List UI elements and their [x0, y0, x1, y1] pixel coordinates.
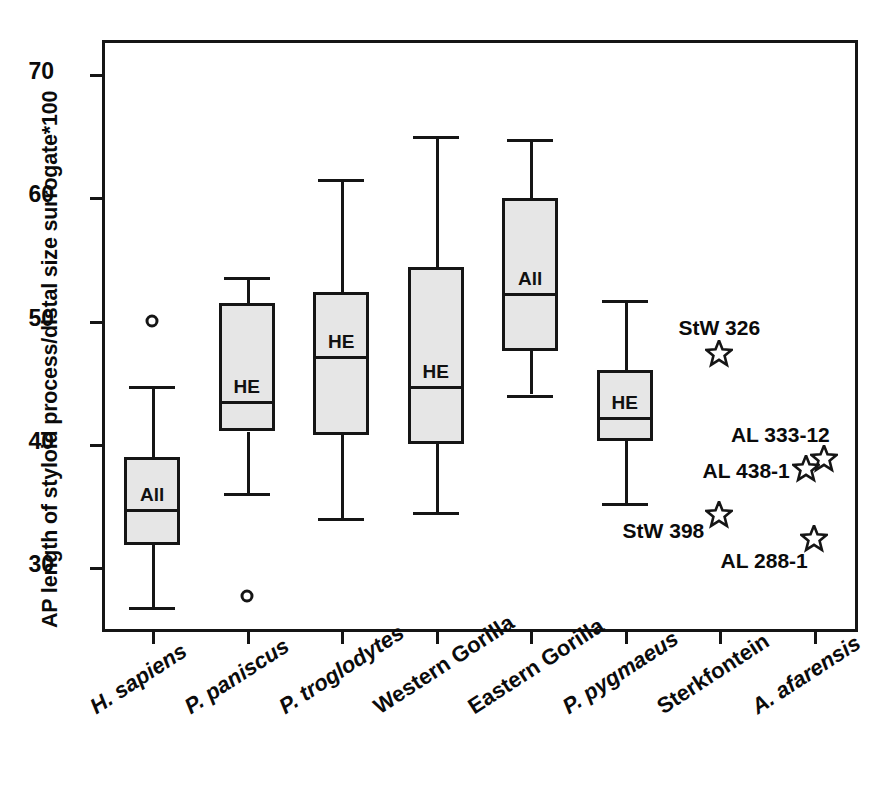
fossil-label-0: StW 326	[678, 316, 760, 340]
whisker-upper	[341, 179, 344, 292]
outlier-point[interactable]	[240, 589, 253, 602]
whisker-lower	[341, 435, 344, 518]
y-axis-tick-label: 30	[28, 551, 54, 578]
whisker-cap-upper	[602, 300, 648, 303]
y-axis-tick-label: 60	[28, 181, 54, 208]
outlier-point[interactable]	[146, 314, 159, 327]
whisker-cap-upper	[129, 386, 175, 389]
y-axis-tick-label: 40	[28, 427, 54, 454]
caption-strip	[0, 770, 895, 799]
median-line	[313, 356, 369, 359]
fossil-label-4: AL 288-1	[721, 549, 808, 573]
whisker-cap-lower	[602, 503, 648, 506]
box-iqr[interactable]	[219, 303, 275, 431]
whisker-cap-upper	[507, 139, 553, 142]
median-line	[219, 401, 275, 404]
median-line	[408, 386, 464, 389]
fossil-label-2: AL 333-12	[731, 423, 830, 447]
y-axis-tick	[90, 444, 105, 447]
x-axis-tick	[341, 629, 344, 644]
y-axis-tick	[90, 197, 105, 200]
box-iqr[interactable]	[313, 292, 369, 435]
box-iqr[interactable]	[408, 267, 464, 443]
x-axis-tick-label-1[interactable]: P. paniscus	[180, 633, 294, 720]
x-axis-tick	[719, 629, 722, 644]
y-axis-tick	[90, 74, 105, 77]
whisker-lower	[625, 441, 628, 503]
whisker-lower	[247, 432, 250, 494]
y-axis-tick-label: 50	[28, 304, 54, 331]
whisker-upper	[247, 277, 250, 303]
whisker-cap-lower	[507, 395, 553, 398]
median-line	[597, 417, 653, 420]
whisker-lower	[530, 351, 533, 394]
whisker-upper	[530, 139, 533, 198]
x-axis-tick	[152, 629, 155, 644]
fossil-label-3: AL 438-1	[703, 459, 790, 483]
plot-area: AllHEHEHEAllHE StW 326StW 398AL 333-12AL…	[102, 40, 858, 632]
whisker-lower	[152, 545, 155, 607]
fossil-star-icon[interactable]	[705, 501, 733, 529]
box-tag-label: All	[140, 484, 164, 506]
box-tag-label: HE	[612, 392, 638, 414]
fossil-label-1: StW 398	[623, 519, 705, 543]
whisker-cap-upper	[318, 179, 364, 182]
x-axis-tick	[530, 629, 533, 644]
whisker-cap-lower	[224, 493, 270, 496]
fossil-star-icon[interactable]	[792, 455, 820, 483]
whisker-cap-lower	[129, 607, 175, 610]
whisker-lower	[436, 444, 439, 512]
whisker-upper	[436, 136, 439, 268]
whisker-upper	[152, 386, 155, 458]
y-axis-tick	[90, 567, 105, 570]
x-axis-tick	[814, 629, 817, 644]
whisker-cap-upper	[413, 136, 459, 139]
fossil-star-icon[interactable]	[705, 340, 733, 368]
boxplot-figure: AP length of styloid process/distal size…	[0, 0, 895, 799]
box-tag-label: HE	[328, 331, 354, 353]
box-tag-label: HE	[234, 376, 260, 398]
median-line	[502, 293, 558, 296]
x-axis-tick	[625, 629, 628, 644]
x-axis-tick-label-0[interactable]: H. sapiens	[85, 638, 191, 720]
whisker-cap-lower	[318, 518, 364, 521]
box-tag-label: HE	[423, 361, 449, 383]
whisker-cap-upper	[224, 277, 270, 280]
y-axis-tick-labels: 3040506070	[0, 0, 100, 799]
y-axis-tick-label: 70	[28, 57, 54, 84]
whisker-upper	[625, 300, 628, 370]
median-line	[124, 509, 180, 512]
x-axis-tick	[436, 629, 439, 644]
x-axis-tick	[247, 629, 250, 644]
box-tag-label: All	[518, 268, 542, 290]
whisker-cap-lower	[413, 512, 459, 515]
y-axis-tick	[90, 321, 105, 324]
